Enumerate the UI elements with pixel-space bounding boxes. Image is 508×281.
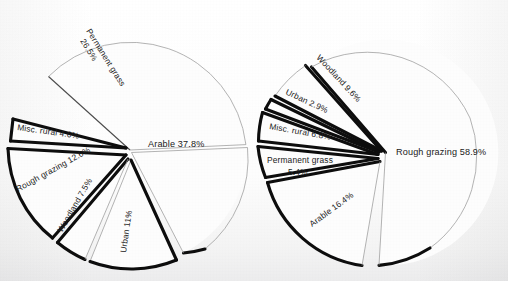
- right-pie-chart: Rough grazing 58.9% Woodland 9.6% Urban …: [0, 0, 508, 281]
- right-label-rough-grazing: Rough grazing 58.9%: [396, 147, 486, 157]
- right-label-permanent-grass: Permanent grass: [267, 155, 333, 165]
- right-label-permanent-grass-value: 5.4%: [288, 167, 308, 177]
- figure-page: Arable 37.8% Permanent grass 26.5% Misc.…: [0, 0, 508, 281]
